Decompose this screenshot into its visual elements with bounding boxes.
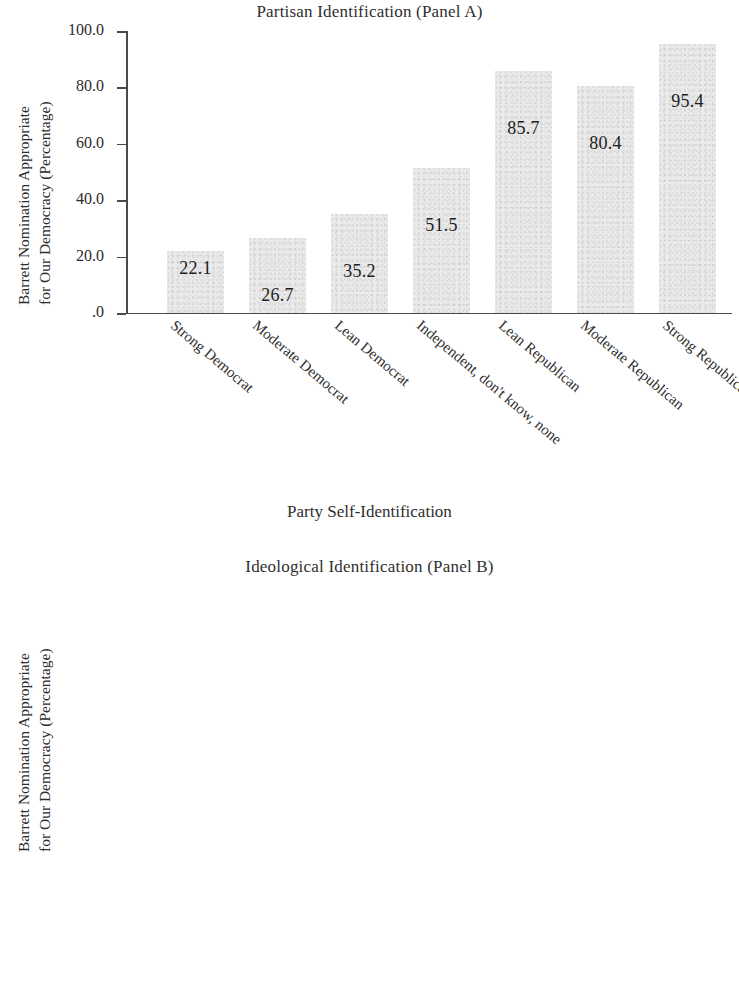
panel-a-ytick-100: 100.0 [117, 31, 126, 33]
bar[interactable]: 26.7 [249, 238, 306, 313]
bar-value-label: 85.7 [507, 118, 540, 139]
panel-a-title: Partisan Identification (Panel A) [0, 2, 739, 22]
bar-value-label: 35.2 [343, 261, 376, 282]
bar-value-label: 22.1 [179, 258, 212, 279]
category-label: Strong Democrat [167, 317, 257, 396]
panel-a-ytick-label-80: 80.0 [76, 77, 104, 95]
bar[interactable]: 51.5 [413, 168, 470, 313]
bar[interactable]: 80.4 [577, 86, 634, 313]
panel-a: Partisan Identification (Panel A) Barret… [0, 0, 739, 520]
panel-a-ytick-label-60: 60.0 [76, 134, 104, 152]
panel-b: Ideological Identification (Panel B) Bar… [0, 555, 739, 1007]
panel-a-ytick-label-0: .0 [92, 303, 104, 321]
panel-a-ytick-label-20: 20.0 [76, 247, 104, 265]
bar-value-label: 51.5 [425, 215, 458, 236]
bar[interactable]: 85.7 [495, 71, 552, 313]
panel-a-ytick-40: 40.0 [117, 200, 126, 202]
panel-a-y-axis-line [126, 31, 128, 313]
panel-a-ytick-0: .0 [117, 313, 126, 315]
y-axis-title-line1: Barrett Nomination Appropriate [14, 653, 33, 852]
panel-a-x-axis-title: Party Self-Identification [0, 502, 739, 522]
panel-a-ytick-20: 20.0 [117, 257, 126, 259]
panel-a-ytick-label-100: 100.0 [68, 21, 104, 39]
category-label: Independent, don't know, none [413, 317, 565, 448]
bar-value-label: 80.4 [589, 133, 622, 154]
bar[interactable]: 35.2 [331, 214, 388, 313]
panel-a-ytick-60: 60.0 [117, 144, 126, 146]
category-label: Lean Republican [495, 317, 584, 396]
bar-value-label: 26.7 [261, 285, 294, 306]
y-axis-title-line2: for Our Democracy (Percentage) [35, 101, 54, 305]
bar[interactable]: 95.4 [659, 44, 716, 313]
y-axis-title-line2: for Our Democracy (Percentage) [35, 648, 54, 852]
panel-a-ytick-80: 80.0 [117, 87, 126, 89]
y-axis-title-line1: Barrett Nomination Appropriate [14, 106, 33, 305]
bar-value-label: 95.4 [671, 91, 704, 112]
panel-b-title: Ideological Identification (Panel B) [0, 557, 739, 577]
panel-a-plot-area: 100.0 80.0 60.0 40.0 20.0 .0 22.1 26.7 3… [126, 31, 732, 313]
category-label: Lean Democrat [331, 317, 413, 390]
bar[interactable]: 22.1 [167, 251, 224, 313]
panel-a-ytick-label-40: 40.0 [76, 190, 104, 208]
